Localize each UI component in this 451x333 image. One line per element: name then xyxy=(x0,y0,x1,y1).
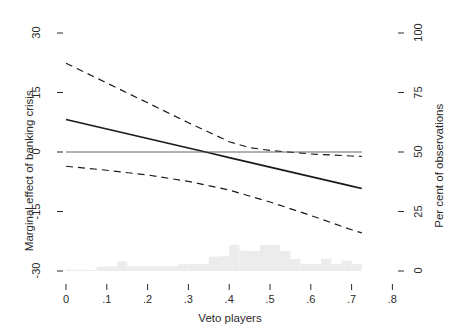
y-axis-right-title: Per cent of observations xyxy=(434,81,446,251)
histogram-bar xyxy=(311,264,321,271)
histogram-bar xyxy=(168,266,178,271)
y-tick-label-right: 100 xyxy=(413,21,424,45)
histogram-bar xyxy=(280,251,290,271)
histogram-bar xyxy=(188,264,198,271)
histogram-bar xyxy=(97,267,107,271)
plot-area xyxy=(0,0,451,333)
histogram-bar xyxy=(107,266,117,271)
histogram-bar xyxy=(270,245,280,271)
y-axis-right-ticks xyxy=(398,33,404,271)
x-tick-label: .8 xyxy=(377,294,407,305)
histogram-bar xyxy=(86,270,96,271)
histogram-bar xyxy=(76,270,86,271)
x-tick-label: .4 xyxy=(214,294,244,305)
y-tick-label-right: 75 xyxy=(413,80,424,104)
histogram-bar xyxy=(301,264,311,271)
x-tick-label: .1 xyxy=(92,294,122,305)
histogram-bar xyxy=(137,266,147,271)
histogram-bar xyxy=(127,266,137,271)
histogram-bars xyxy=(66,245,362,271)
x-tick-label: .5 xyxy=(255,294,285,305)
histogram-bar xyxy=(219,256,229,271)
histogram-bar xyxy=(66,270,76,271)
histogram-bar xyxy=(290,259,300,271)
histogram-bar xyxy=(199,264,209,271)
histogram-bar xyxy=(352,264,362,271)
x-tick-label: .2 xyxy=(133,294,163,305)
x-tick-label: .7 xyxy=(337,294,367,305)
histogram-bar xyxy=(250,251,260,271)
histogram-bar xyxy=(321,259,331,271)
histogram-bar xyxy=(117,261,127,271)
y-tick-label-right: 25 xyxy=(413,199,424,223)
marginal-effects-chart: 30150-15-30 1007550250 0.1.2.3.4.5.6.7.8… xyxy=(0,0,451,333)
y-axis-left-title: Marginal effect of banking crisis xyxy=(24,71,36,271)
x-tick-label: .6 xyxy=(296,294,326,305)
histogram-bar xyxy=(239,251,249,271)
y-tick-label-left: 30 xyxy=(31,21,42,45)
histogram-bar xyxy=(158,266,168,271)
x-axis-ticks xyxy=(66,284,392,290)
y-tick-label-right: 0 xyxy=(413,259,424,283)
histogram-bar xyxy=(229,245,239,271)
histogram-bar xyxy=(209,257,219,271)
series-line xyxy=(66,63,362,156)
y-tick-label-right: 50 xyxy=(413,140,424,164)
x-tick-label: 0 xyxy=(51,294,81,305)
histogram-bar xyxy=(331,264,341,271)
y-axis-left-ticks xyxy=(57,33,63,271)
series-line xyxy=(66,166,362,233)
series-lines xyxy=(66,63,362,233)
histogram-bar xyxy=(148,266,158,271)
histogram-bar xyxy=(260,245,270,271)
histogram-bar xyxy=(178,264,188,271)
histogram-bar xyxy=(341,261,351,271)
x-axis-title: Veto players xyxy=(160,313,300,325)
x-tick-label: .3 xyxy=(173,294,203,305)
